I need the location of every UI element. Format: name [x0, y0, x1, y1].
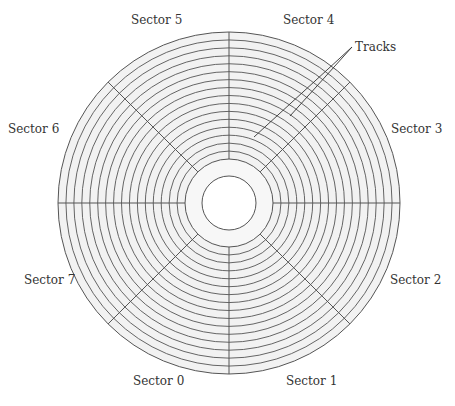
label-sector-1: Sector 1: [286, 374, 337, 388]
label-sector-7: Sector 7: [24, 273, 75, 287]
label-tracks: Tracks: [355, 40, 396, 54]
label-sector-0: Sector 0: [133, 374, 184, 388]
label-sector-6: Sector 6: [8, 122, 59, 136]
spindle-hub: [202, 176, 256, 230]
disk-diagram: Sector 5 Sector 4 Tracks Sector 3 Sector…: [0, 0, 455, 406]
label-sector-2: Sector 2: [390, 273, 441, 287]
label-sector-3: Sector 3: [391, 122, 442, 136]
label-sector-4: Sector 4: [283, 13, 334, 27]
label-sector-5: Sector 5: [131, 13, 182, 27]
disk-platter: [0, 0, 455, 406]
